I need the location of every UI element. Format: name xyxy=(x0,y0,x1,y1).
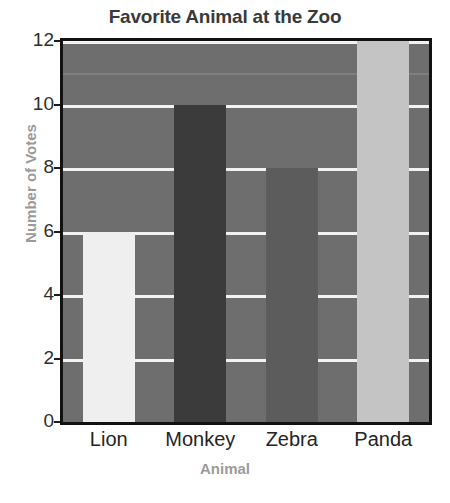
chart-screenshot: Favorite Animal at the Zoo Number of Vot… xyxy=(0,0,450,503)
bar-monkey xyxy=(174,105,226,423)
bar-lion xyxy=(83,232,135,423)
y-tick-label: 0 xyxy=(20,411,54,430)
y-tick-label: 10 xyxy=(20,94,54,113)
x-tick-label-lion: Lion xyxy=(63,429,155,449)
x-tick-label-monkey: Monkey xyxy=(155,429,247,449)
page-title: Favorite Animal at the Zoo xyxy=(0,6,450,28)
plot-area xyxy=(60,38,432,425)
x-axis-title: Animal xyxy=(0,460,450,477)
x-tick-label-panda: Panda xyxy=(338,429,430,449)
y-tick-label: 8 xyxy=(20,157,54,176)
y-tick-label: 12 xyxy=(20,30,54,49)
bar-panda xyxy=(357,41,409,422)
y-tick-label: 6 xyxy=(20,221,54,240)
y-tick-label: 4 xyxy=(20,284,54,303)
bar-zebra xyxy=(266,168,318,422)
x-tick-label-zebra: Zebra xyxy=(246,429,338,449)
y-axis-tick-labels: 024681012 xyxy=(14,0,54,503)
y-tick-label: 2 xyxy=(20,348,54,367)
